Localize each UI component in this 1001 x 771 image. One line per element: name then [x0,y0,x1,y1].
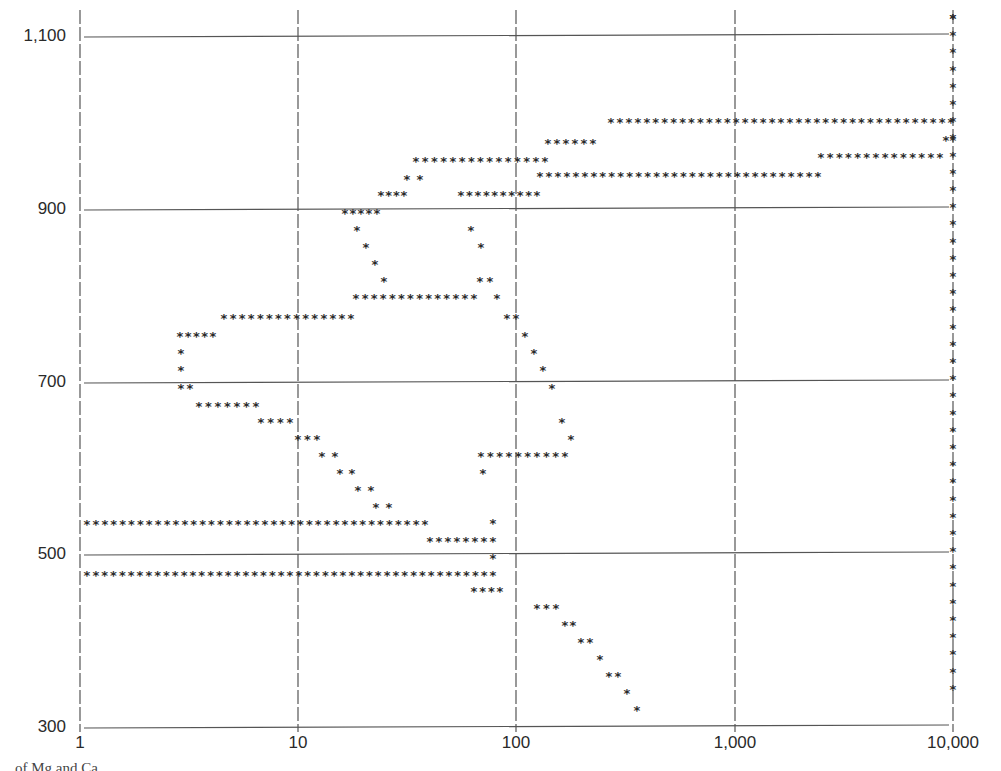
asterisk-marker: * [257,311,264,326]
asterisk-marker: * [500,188,507,203]
asterisk-marker: * [608,169,615,184]
asterisk-marker: * [284,311,291,326]
asterisk-marker: * [137,568,144,583]
asterisk-marker: * [562,618,569,633]
asterisk-marker: * [177,329,184,344]
asterisk-marker: * [331,568,338,583]
x-tick-label: 1 [35,733,125,753]
asterisk-marker: * [128,517,135,532]
asterisk-marker: * [279,517,286,532]
asterisk-marker: * [350,517,357,532]
asterisk-marker: * [496,154,503,169]
asterisk-marker: * [624,686,631,701]
asterisk-marker: * [831,115,838,130]
asterisk-marker: * [478,449,485,464]
asterisk-marker: * [381,274,388,289]
asterisk-marker: * [909,150,916,165]
asterisk-marker: * [752,169,759,184]
asterisk-marker: * [234,399,241,414]
asterisk-marker: * [570,618,577,633]
asterisk-marker: * [950,596,957,611]
asterisk-marker: * [670,115,677,130]
asterisk-marker: * [354,223,361,238]
asterisk-marker: * [340,568,347,583]
asterisk-marker: * [950,252,957,267]
asterisk-marker: * [950,561,957,576]
asterisk-marker: * [634,115,641,130]
figure-caption: ... of Mg and Ca [0,760,1001,771]
asterisk-marker: * [950,544,957,559]
asterisk-marker: * [581,169,588,184]
asterisk-marker: * [373,500,380,515]
asterisk-marker: * [137,517,144,532]
asterisk-marker: * [742,115,749,130]
asterisk-marker: * [671,169,678,184]
asterisk-marker: * [806,169,813,184]
asterisk-marker: * [333,517,340,532]
asterisk-marker: * [478,240,485,255]
asterisk-marker: * [377,517,384,532]
asterisk-marker: * [477,154,484,169]
asterisk-marker: * [950,235,957,250]
asterisk-marker: * [532,154,539,169]
asterisk-marker: * [508,188,515,203]
asterisk-marker: * [378,188,385,203]
asterisk-marker: * [725,169,732,184]
asterisk-marker: * [146,517,153,532]
asterisk-marker: * [680,169,687,184]
asterisk-marker: * [743,169,750,184]
asterisk-marker: * [545,136,552,151]
asterisk-marker: * [466,188,473,203]
asterisk-marker: * [751,115,758,130]
asterisk-marker: * [950,200,957,215]
asterisk-marker: * [950,321,957,336]
asterisk-marker: * [196,399,203,414]
asterisk-marker: * [937,150,944,165]
asterisk-marker: * [431,154,438,169]
asterisk-marker: * [514,154,521,169]
asterisk-marker: * [559,415,566,430]
asterisk-marker: * [393,568,400,583]
asterisk-marker: * [625,115,632,130]
asterisk-marker: * [422,517,429,532]
asterisk-marker: * [505,154,512,169]
asterisk-marker: * [554,136,561,151]
asterisk-marker: * [348,311,355,326]
asterisk-marker: * [320,311,327,326]
asterisk-marker: * [293,311,300,326]
asterisk-marker: * [543,449,550,464]
asterisk-marker: * [815,169,822,184]
asterisk-marker: * [813,115,820,130]
asterisk-marker: * [487,274,494,289]
asterisk-marker: * [401,188,408,203]
asterisk-marker: * [253,517,260,532]
asterisk-marker: * [419,568,426,583]
asterisk-marker: * [198,568,205,583]
asterisk-marker: * [652,115,659,130]
asterisk-marker: * [818,150,825,165]
asterisk-marker: * [235,517,242,532]
asterisk-marker: * [788,169,795,184]
asterisk-marker: * [490,516,497,531]
asterisk-marker: * [110,568,117,583]
asterisk-marker: * [537,169,544,184]
asterisk-marker: * [337,466,344,481]
asterisk-marker: * [275,311,282,326]
asterisk-marker: * [401,568,408,583]
asterisk-marker: * [288,517,295,532]
asterisk-marker: * [921,115,928,130]
asterisk-marker: * [760,115,767,130]
asterisk-marker: * [350,206,357,221]
asterisk-marker: * [277,415,284,430]
asterisk-marker: * [912,115,919,130]
asterisk-marker: * [413,154,420,169]
asterisk-marker: * [278,568,285,583]
asterisk-marker: * [542,154,549,169]
asterisk-marker: * [187,381,194,396]
asterisk-marker: * [534,449,541,464]
asterisk-marker: * [950,45,957,60]
asterisk-marker: * [724,115,731,130]
asterisk-marker: * [706,115,713,130]
asterisk-marker: * [386,500,393,515]
asterisk-marker: * [858,115,865,130]
